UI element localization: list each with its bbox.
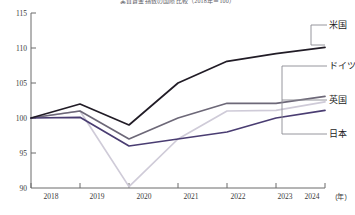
y-tick-label-95: 95 (20, 149, 28, 158)
x-tick-label-2022: 2022 (231, 192, 246, 201)
x-axis: 2018 2019 2020 2021 2022 2023 2024 (年) (31, 183, 347, 201)
y-axis: 115 110 105 100 95 90 (16, 9, 36, 193)
series-label-germany: ドイツ (329, 61, 355, 71)
line-chart: 実質賃金指数の国際比較（2018年＝100） 115 110 105 100 9… (0, 0, 355, 215)
callout-labels: 米国 ドイツ 英国 日本 (329, 19, 355, 139)
x-axis-unit-label: (年) (335, 192, 347, 201)
series-label-japan: 日本 (329, 128, 347, 139)
y-tick-label-90: 90 (20, 184, 28, 193)
series-label-uk: 英国 (329, 94, 347, 105)
callout-leaders (282, 25, 327, 134)
x-tick-label-2021: 2021 (184, 192, 199, 201)
chart-canvas: 115 110 105 100 95 90 2018 2019 2020 202… (0, 0, 355, 215)
x-tick-label-2019: 2019 (90, 192, 105, 201)
x-tick-label-2023: 2023 (278, 192, 293, 201)
y-tick-label-100: 100 (16, 114, 28, 123)
series-label-usa: 米国 (329, 19, 347, 30)
y-tick-label-115: 115 (16, 9, 27, 18)
series-line-japan (31, 110, 325, 146)
y-tick-label-105: 105 (16, 79, 28, 88)
x-tick-label-2024: 2024 (305, 192, 320, 201)
series-group (31, 47, 325, 186)
leader-line-usa (311, 25, 327, 45)
series-line-germany (31, 102, 325, 187)
series-line-usa (31, 47, 325, 125)
x-tick-label-2018: 2018 (44, 192, 59, 201)
y-tick-label-110: 110 (16, 44, 27, 53)
axis-lines (31, 13, 325, 188)
x-tick-label-2020: 2020 (137, 192, 152, 201)
